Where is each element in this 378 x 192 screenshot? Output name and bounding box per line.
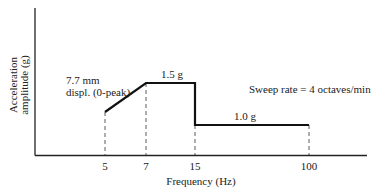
- sweep-rate-annotation: Sweep rate = 4 octaves/min: [249, 83, 371, 95]
- y-axis-label-line2: amplitude (g): [18, 55, 31, 115]
- displacement-annotation-line1: 7.7 mm: [66, 74, 100, 86]
- level-low-label: 1.0 g: [234, 110, 257, 122]
- displacement-annotation-line2: displ. (0-peak): [66, 86, 130, 99]
- x-tick-100: 100: [301, 160, 318, 172]
- x-tick-15: 15: [190, 160, 202, 172]
- x-axis-label: Frequency (Hz): [166, 175, 236, 188]
- vibration-profile-chart: Acceleration amplitude (g) 5 7 15 100 Fr…: [0, 0, 378, 192]
- level-high-label: 1.5 g: [161, 68, 184, 80]
- x-tick-5: 5: [102, 160, 108, 172]
- x-tick-7: 7: [143, 160, 149, 172]
